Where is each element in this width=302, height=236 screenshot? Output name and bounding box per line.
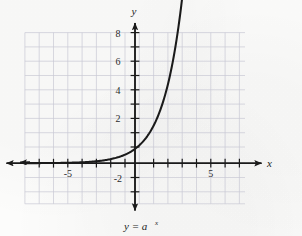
y-tick-label-2: 2	[116, 113, 121, 124]
y-tick-label-8: 8	[116, 28, 121, 39]
exponential-function-figure: 8 6 4 2 -2 -5 5 y x y = a x	[0, 0, 302, 236]
exponential-curve	[23, 0, 185, 163]
y-axis-label: y	[131, 5, 137, 17]
y-tick-label-4: 4	[116, 85, 121, 96]
x-tick-label-5: 5	[208, 168, 213, 179]
figure-caption: y = a x	[123, 219, 159, 232]
x-axis-label: x	[266, 157, 272, 169]
graph-canvas: 8 6 4 2 -2 -5 5 y x y = a x	[0, 0, 302, 236]
y-tick-label-6: 6	[116, 56, 121, 67]
y-tick-label-minus-2: -2	[114, 173, 122, 184]
x-tick-label-minus-5: -5	[64, 168, 72, 179]
caption-base: y = a	[123, 220, 148, 232]
caption-exponent: x	[154, 219, 159, 227]
